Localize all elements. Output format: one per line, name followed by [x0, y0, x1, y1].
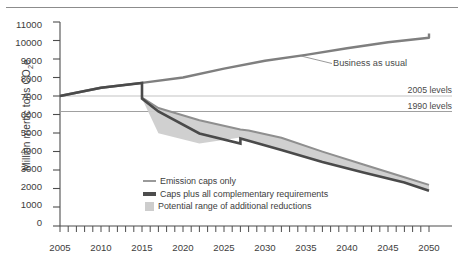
annotation-leader-line: [301, 56, 332, 64]
reference-label-1990-levels: 1990 levels: [352, 101, 452, 111]
legend-swatch-thin-line-icon: [143, 180, 156, 182]
legend-swatch-filled-square-icon: [145, 202, 154, 211]
plot-area: [0, 0, 463, 268]
legend-label-emission-caps-only: Emission caps only: [160, 176, 236, 186]
chart-canvas: Million mertic tons CO2e 11000 10000 900…: [0, 0, 463, 268]
x-minor-tick-marks: [60, 226, 429, 232]
legend-item-emission-caps-only: Emission caps only: [143, 175, 328, 188]
legend-item-potential-range: Potential range of additional reductions: [143, 200, 328, 213]
legend-label-caps-plus-complementary: Caps plus all complementary requirements: [160, 189, 328, 199]
chart-legend: Emission caps only Caps plus all complem…: [143, 175, 328, 213]
annotation-business-as-usual: Business as usual: [333, 58, 407, 68]
reference-label-2005-levels: 2005 levels: [352, 85, 452, 95]
legend-swatch-thick-line-icon: [143, 192, 156, 195]
legend-label-potential-range: Potential range of additional reductions: [158, 201, 311, 211]
y-tick-marks: [53, 22, 60, 226]
legend-item-caps-plus-complementary: Caps plus all complementary requirements: [143, 188, 328, 201]
